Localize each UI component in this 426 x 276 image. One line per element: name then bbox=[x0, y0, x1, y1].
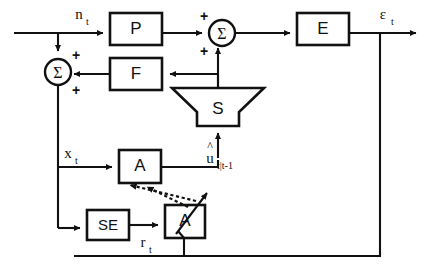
sum-left-sign-top: + bbox=[72, 47, 80, 63]
signal-sub-eps: t bbox=[391, 16, 394, 27]
signal-sub-x: t bbox=[75, 155, 78, 166]
block-P-label: P bbox=[130, 19, 141, 38]
signal-label-r: r bbox=[141, 234, 146, 250]
signal-label-n: n bbox=[75, 6, 83, 22]
block-S-label: S bbox=[212, 99, 223, 118]
dotted-link-A-lower-to-A-upper-a bbox=[130, 185, 196, 201]
figure-canvas: P Σ + + E F Σ + + S bbox=[0, 0, 426, 276]
sum-right-symbol: Σ bbox=[217, 25, 226, 42]
sum-left-symbol: Σ bbox=[53, 64, 62, 81]
sum-left-sign-bottom: + bbox=[72, 82, 80, 98]
signal-label-eps: ε bbox=[380, 6, 386, 22]
block-SE-label: SE bbox=[98, 216, 118, 233]
sum-right-sign-bottom: + bbox=[200, 43, 208, 59]
sum-right-sign-top: + bbox=[200, 8, 208, 24]
signal-sub-n: t bbox=[86, 16, 89, 27]
signal-sub-u: t|t-1 bbox=[217, 160, 233, 171]
block-A-upper-label: A bbox=[134, 156, 146, 175]
signal-sub-r: t bbox=[149, 244, 152, 255]
signal-label-x: x bbox=[64, 145, 72, 161]
block-diagram-svg: P Σ + + E F Σ + + S bbox=[0, 0, 426, 276]
block-E-label: E bbox=[317, 19, 328, 38]
block-F-label: F bbox=[131, 64, 141, 83]
signal-label-u: u bbox=[206, 150, 214, 166]
